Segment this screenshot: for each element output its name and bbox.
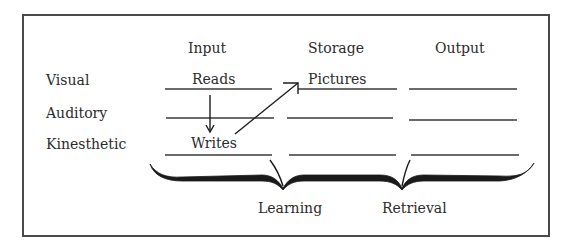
brace-label-retrieval: Retrieval (382, 200, 447, 216)
brace-label-learning: Learning (258, 200, 322, 216)
cell-visual-storage: Pictures (308, 71, 367, 87)
learning-modalities-diagram: Input Storage Output Visual Auditory Kin… (0, 0, 571, 247)
row-label-auditory: Auditory (45, 105, 107, 121)
row-label-kinesthetic: Kinesthetic (46, 136, 126, 152)
column-header-storage: Storage (308, 40, 364, 56)
cell-visual-input: Reads (192, 71, 235, 87)
column-header-output: Output (435, 40, 485, 56)
column-header-input: Input (188, 40, 227, 56)
row-label-visual: Visual (45, 72, 90, 88)
cell-kinesthetic-input: Writes (191, 135, 237, 151)
